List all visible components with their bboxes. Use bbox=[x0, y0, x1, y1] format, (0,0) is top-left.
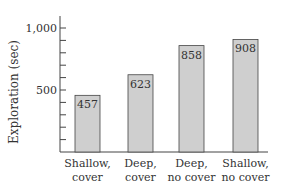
bar bbox=[233, 39, 258, 152]
x-tick-label: cover bbox=[72, 171, 104, 184]
chart-canvas: 5001,000 457623858908 Shallow,coverDeep,… bbox=[0, 0, 293, 188]
bar-chart: 5001,000 457623858908 Shallow,coverDeep,… bbox=[0, 0, 293, 188]
bar-value-label: 457 bbox=[77, 98, 98, 111]
y-axis-label: Exploration (sec) bbox=[7, 40, 21, 144]
bar-value-label: 623 bbox=[130, 78, 151, 91]
bar-value-label: 858 bbox=[181, 49, 202, 62]
x-tick-label: Deep, bbox=[124, 157, 156, 170]
y-tick-label: 1,000 bbox=[26, 22, 58, 35]
x-tick-label: no cover bbox=[168, 171, 217, 184]
x-tick-label: Shallow, bbox=[222, 157, 268, 170]
x-tick-label: Shallow, bbox=[64, 157, 110, 170]
bars: 457623858908 bbox=[75, 39, 258, 152]
y-tick-label: 500 bbox=[36, 84, 57, 97]
x-tick-label: cover bbox=[125, 171, 157, 184]
x-tick-label: no cover bbox=[222, 171, 271, 184]
x-axis-labels: Shallow,coverDeep,coverDeep,no coverShal… bbox=[64, 157, 270, 184]
x-tick-label: Deep, bbox=[175, 157, 207, 170]
bar-value-label: 908 bbox=[235, 42, 256, 55]
